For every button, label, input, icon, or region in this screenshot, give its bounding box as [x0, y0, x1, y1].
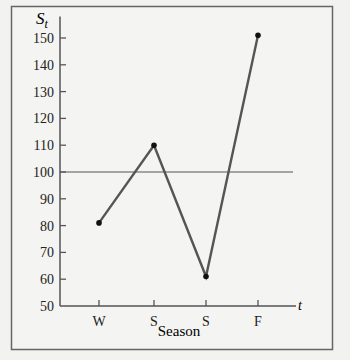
- y-tick-label: 70: [40, 245, 54, 260]
- x-tick-label: S: [202, 314, 210, 329]
- y-tick-label: 50: [40, 299, 54, 314]
- x-tick-label: F: [254, 314, 262, 329]
- data-point: [203, 274, 209, 280]
- y-tick-label: 110: [34, 138, 54, 153]
- y-tick-label: 60: [40, 272, 54, 287]
- y-tick-label: 80: [40, 219, 54, 234]
- x-tick-label: S: [150, 314, 158, 329]
- data-point: [255, 33, 261, 39]
- seasonal-index-chart: 5060708090100110120130140150 WSSF St t S…: [0, 0, 350, 360]
- y-tick-label: 130: [33, 85, 54, 100]
- x-axis-label: Season: [158, 323, 201, 339]
- y-tick-label: 90: [40, 192, 54, 207]
- data-point: [151, 142, 157, 148]
- y-tick-label: 100: [33, 165, 54, 180]
- x-tick-label: W: [92, 314, 106, 329]
- data-point: [96, 220, 102, 226]
- y-tick-label: 150: [33, 31, 54, 46]
- y-tick-label: 140: [33, 58, 54, 73]
- y-tick-label: 120: [33, 111, 54, 126]
